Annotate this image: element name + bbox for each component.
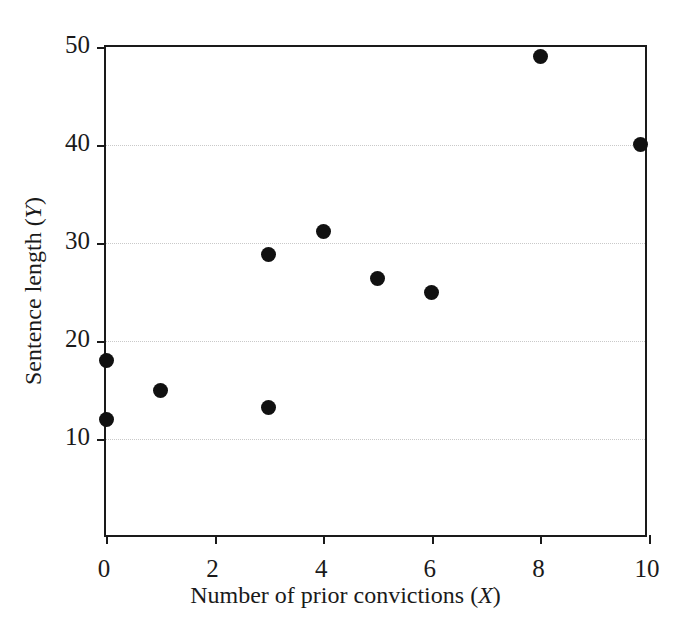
gridline-y-20 (106, 341, 645, 342)
data-point (261, 400, 276, 415)
axis-title-variable: X (478, 582, 493, 608)
x-axis-title: Number of prior convictions (X) (0, 583, 691, 607)
axis-title-tail: ) (20, 197, 46, 205)
x-tick-6 (432, 535, 434, 544)
x-tick-label-0: 0 (69, 556, 139, 581)
gridline-y-40 (106, 145, 645, 146)
plot-area (104, 45, 647, 537)
x-tick-label-6: 6 (395, 556, 465, 581)
data-point (424, 285, 439, 300)
y-axis-title: Sentence length (Y) (16, 45, 50, 537)
y-tick-30 (97, 243, 106, 245)
data-point (633, 137, 648, 152)
axis-title-text: Sentence length ( (20, 218, 46, 385)
data-point (99, 412, 114, 427)
axis-title-tail: ) (493, 582, 501, 608)
y-tick-50 (97, 47, 106, 49)
x-tick-10 (649, 535, 651, 544)
data-point (153, 383, 168, 398)
x-tick-label-4: 4 (286, 556, 356, 581)
gridline-y-30 (106, 243, 645, 244)
axis-title-variable: Y (20, 205, 46, 218)
x-tick-label-8: 8 (503, 556, 573, 581)
x-tick-2 (215, 535, 217, 544)
data-point (533, 49, 548, 64)
y-tick-20 (97, 341, 106, 343)
y-tick-10 (97, 439, 106, 441)
scatter-plot-figure: 1020304050 0246810 Number of prior convi… (0, 0, 691, 628)
x-tick-label-10: 10 (612, 556, 682, 581)
data-point (261, 247, 276, 262)
x-tick-label-2: 2 (178, 556, 248, 581)
data-point (370, 271, 385, 286)
gridline-y-10 (106, 439, 645, 440)
x-tick-0 (106, 535, 108, 544)
x-tick-8 (540, 535, 542, 544)
axis-title-text: Number of prior convictions ( (190, 582, 478, 608)
data-point (316, 224, 331, 239)
y-tick-40 (97, 145, 106, 147)
x-tick-4 (323, 535, 325, 544)
data-point (99, 353, 114, 368)
